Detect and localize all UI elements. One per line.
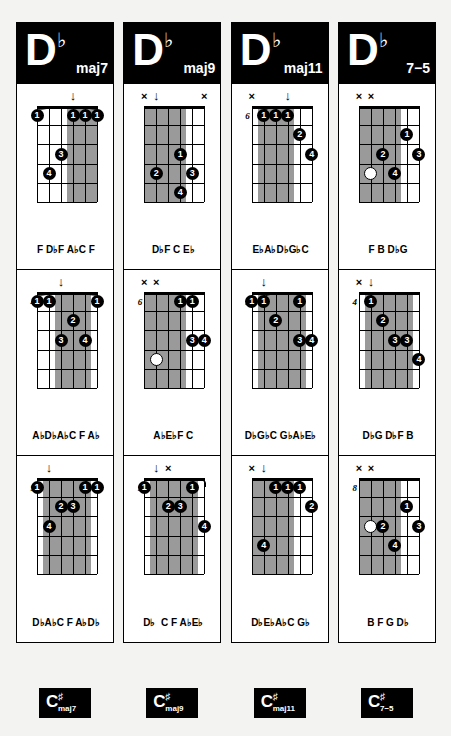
- string-line: [359, 106, 360, 202]
- string-line: [312, 478, 313, 574]
- fret-line: [359, 350, 419, 351]
- fret-line: [144, 202, 204, 203]
- finger-dot: 1: [79, 109, 92, 122]
- chord-note-names: A♭D♭A♭C F A♭: [17, 430, 115, 441]
- chord-note-names: D♭G D♭F B: [339, 430, 437, 441]
- chord-diagram[interactable]: ↓4111234A♭D♭A♭C F A♭: [17, 270, 113, 456]
- nut-line: [144, 292, 204, 295]
- fret-line: [359, 536, 419, 537]
- finger-dot: 3: [412, 520, 425, 533]
- finger-dot: 3: [412, 148, 425, 161]
- muted-string-icon: ×: [366, 462, 376, 474]
- finger-dot: 3: [400, 334, 413, 347]
- string-markers: ↓×: [124, 462, 222, 476]
- chord-note-names: A♭E♭F C: [124, 430, 222, 441]
- fret-line: [359, 516, 419, 517]
- string-line: [252, 106, 253, 202]
- string-markers: ↓: [17, 90, 115, 104]
- enharmonic-accidental-sharp-icon: ♯: [380, 691, 385, 702]
- fretboard-grid: 111234: [37, 478, 97, 574]
- finger-dot: 3: [55, 148, 68, 161]
- chord-diagram[interactable]: ×↓11124D♭E♭A♭C G♭: [232, 456, 328, 642]
- chord-accidental-flat-icon: ♭: [57, 30, 66, 50]
- string-line: [192, 106, 193, 202]
- string-line: [156, 106, 157, 202]
- fret-line: [144, 516, 204, 517]
- chord-diagram[interactable]: ↓9111234D♭A♭C F A♭D♭: [17, 456, 113, 642]
- strum-arrow-icon: ↓: [151, 462, 161, 474]
- string-line: [156, 292, 157, 388]
- fret-line: [37, 536, 97, 537]
- fret-line: [144, 164, 204, 165]
- fret-line: [37, 388, 97, 389]
- chord-diagram[interactable]: ×↓611124E♭A♭D♭G♭C: [232, 84, 328, 270]
- chord-diagram[interactable]: ××1234F B D♭G: [339, 84, 435, 270]
- finger-dot: 4: [412, 353, 425, 366]
- fret-line: [252, 164, 312, 165]
- string-line: [300, 106, 301, 202]
- footer-slot: C♯7−5: [338, 688, 436, 718]
- chord-quality-label: maj7: [76, 60, 108, 76]
- finger-dot: 4: [198, 334, 211, 347]
- chord-root-letter: D: [240, 24, 271, 76]
- finger-dot: 1: [174, 295, 187, 308]
- voicing-card: ×↓×1234D♭F C E♭××61134A♭E♭F C↓×911234D♭ …: [123, 84, 221, 643]
- chord-diagram[interactable]: ××61134A♭E♭F C: [124, 270, 220, 456]
- finger-dot: 2: [376, 148, 389, 161]
- muted-string-icon: ×: [199, 90, 209, 102]
- string-line: [144, 292, 145, 388]
- fretboard-grid: 12334: [359, 292, 419, 388]
- finger-dot: 2: [67, 314, 80, 327]
- fret-line: [144, 555, 204, 556]
- chord-diagram[interactable]: ×↓412334D♭G D♭F B: [339, 270, 435, 456]
- chord-quality-label: maj9: [183, 60, 215, 76]
- finger-dot: 1: [43, 295, 56, 308]
- chord-chart-page: D♭maj7↓111134F D♭F A♭C F↓4111234A♭D♭A♭C …: [0, 0, 451, 736]
- finger-dot: 2: [150, 167, 163, 180]
- fretboard-grid: 1234: [144, 106, 204, 202]
- string-markers: ××: [124, 276, 222, 290]
- fret-line: [37, 369, 97, 370]
- strum-arrow-icon: ↓: [151, 90, 161, 102]
- muted-string-icon: ×: [139, 90, 149, 102]
- chord-diagram[interactable]: ↓9111234D♭G♭C G♭A♭E♭: [232, 270, 328, 456]
- finger-dot: 4: [305, 148, 318, 161]
- enharmonic-quality-label: maj9: [165, 704, 183, 713]
- enharmonic-accidental-sharp-icon: ♯: [165, 691, 170, 702]
- fret-line: [252, 497, 312, 498]
- fret-line: [252, 536, 312, 537]
- strum-arrow-icon: ↓: [44, 462, 54, 474]
- fretboard-grid: 1234: [359, 478, 419, 574]
- nut-line: [144, 106, 204, 109]
- string-line: [395, 106, 396, 202]
- finger-dot: 3: [55, 334, 68, 347]
- finger-dot: 1: [186, 481, 199, 494]
- finger-dot: 2: [55, 500, 68, 513]
- enharmonic-root-letter: C: [46, 691, 58, 713]
- chord-diagram[interactable]: ××81234B F G D♭: [339, 456, 435, 642]
- strum-arrow-icon: ↓: [259, 276, 269, 288]
- string-line: [168, 292, 169, 388]
- fret-line: [37, 183, 97, 184]
- open-string-dot: [150, 353, 163, 366]
- fret-line: [144, 369, 204, 370]
- strum-arrow-icon: ↓: [366, 276, 376, 288]
- finger-dot: 3: [186, 167, 199, 180]
- finger-dot: 4: [198, 520, 211, 533]
- chord-name-header: D♭7−5: [338, 22, 436, 84]
- chord-diagram[interactable]: ×↓×1234D♭F C E♭: [124, 84, 220, 270]
- enharmonic-chord-tag: C♯maj11: [254, 688, 306, 718]
- muted-string-icon: ×: [139, 276, 149, 288]
- muted-string-icon: ×: [163, 462, 173, 474]
- chord-diagram[interactable]: ↓111134F D♭F A♭C F: [17, 84, 113, 270]
- string-line: [359, 478, 360, 574]
- string-line: [407, 478, 408, 574]
- muted-string-icon: ×: [354, 276, 364, 288]
- enharmonic-accidental-sharp-icon: ♯: [273, 691, 278, 702]
- finger-dot: 1: [31, 109, 44, 122]
- finger-dot: 1: [174, 148, 187, 161]
- string-markers: ×↓: [339, 276, 437, 290]
- chord-diagram[interactable]: ↓×911234D♭ C F A♭E♭: [124, 456, 220, 642]
- fret-line: [37, 125, 97, 126]
- fret-line: [252, 183, 312, 184]
